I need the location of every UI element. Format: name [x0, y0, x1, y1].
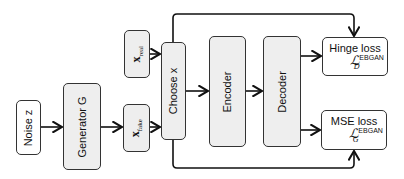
encoder-node: Encoder — [209, 36, 246, 147]
mse-loss-symbol: ℒEBGANG — [349, 127, 358, 145]
x-real-node: xreal — [124, 30, 150, 78]
noise-node: Noise z — [16, 100, 41, 155]
x-real-label: xreal — [129, 46, 145, 63]
x-fake-node: xfake — [123, 104, 150, 152]
decoder-node: Decoder — [263, 36, 301, 147]
x-fake-label: xfake — [128, 119, 144, 137]
choose-node: Choose x — [161, 42, 186, 140]
mse-loss-label: MSE loss — [331, 115, 377, 127]
mse-loss-node: MSE loss ℒEBGANG — [321, 110, 387, 150]
edges — [0, 0, 404, 179]
hinge-loss-node: Hinge loss ℒEBGAND — [322, 37, 388, 76]
generator-label: Generator G — [76, 96, 88, 157]
generator-node: Generator G — [63, 83, 101, 170]
hinge-loss-symbol: ℒEBGAND — [350, 54, 359, 72]
decoder-label: Decoder — [276, 71, 288, 113]
encoder-label: Encoder — [222, 71, 234, 112]
choose-label: Choose x — [168, 68, 180, 114]
noise-label: Noise z — [23, 109, 35, 146]
hinge-loss-label: Hinge loss — [329, 42, 380, 54]
